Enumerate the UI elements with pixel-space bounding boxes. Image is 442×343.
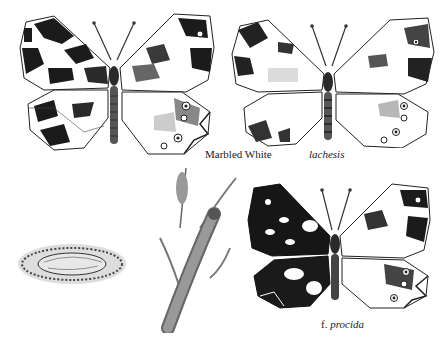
form-prefix: f. [321,318,327,330]
pupa-illustration [14,238,129,288]
lachesis-butterfly-illustration [228,8,438,148]
caterpillar-on-grass-illustration [150,168,240,333]
lachesis-label: lachesis [309,148,344,160]
procida-butterfly-illustration [244,180,434,310]
marbled-white-label: Marbled White [205,148,272,160]
procida-label: f. procida [321,318,364,330]
illustration-plate: Marbled White lachesis [0,0,442,343]
procida-name: procida [330,318,364,330]
marbled-white-butterfly-illustration [14,8,219,158]
